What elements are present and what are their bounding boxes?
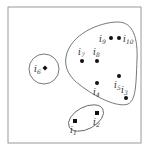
node-i2-marker <box>95 111 99 115</box>
nodes: i1i2i3i4i5i6i7i8i9i10 <box>34 34 134 136</box>
node-i6-marker <box>43 66 48 71</box>
node-i9-label: i9 <box>99 34 106 45</box>
node-i3-marker <box>124 96 128 100</box>
node-i4-marker <box>95 81 99 85</box>
node-i2-label: i2 <box>93 117 100 128</box>
node-i6-label: i6 <box>34 64 41 75</box>
node-i1-marker <box>73 119 77 123</box>
cluster-diagram: i1i2i3i4i5i6i7i8i9i10 <box>0 0 150 152</box>
node-i5-marker <box>117 74 121 78</box>
node-i8-marker <box>95 59 99 63</box>
node-i8-label: i8 <box>93 47 100 58</box>
node-i10-marker <box>117 36 121 40</box>
node-i4-label: i4 <box>93 87 100 98</box>
node-i10-label: i10 <box>123 34 134 45</box>
node-i1-label: i1 <box>70 125 77 136</box>
node-i5-label: i5 <box>114 80 121 91</box>
node-i9-marker <box>109 36 113 40</box>
node-i3-label: i3 <box>121 85 128 96</box>
node-i7-label: i7 <box>78 47 85 58</box>
node-i7-marker <box>80 59 84 63</box>
